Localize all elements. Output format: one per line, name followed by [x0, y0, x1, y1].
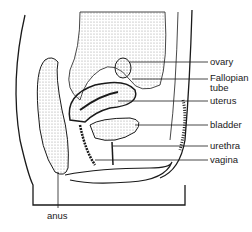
- label-anus: anus: [47, 211, 68, 221]
- rectum: [37, 58, 68, 174]
- label-vagina: vagina: [210, 155, 238, 165]
- label-uterus: uterus: [210, 96, 236, 106]
- label-ovary: ovary: [210, 57, 233, 67]
- label-bladder: bladder: [210, 120, 242, 130]
- bladder-shape: [90, 118, 139, 140]
- label-tube: tube: [210, 83, 229, 93]
- anatomy-diagram: ovary Fallopian tube uterus bladder uret…: [0, 0, 252, 232]
- label-urethra: urethra: [210, 141, 240, 151]
- diagram-illustration: [0, 0, 252, 232]
- ovary-shape: [115, 58, 131, 78]
